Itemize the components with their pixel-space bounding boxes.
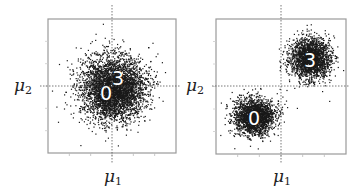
cluster-label-3: 3 bbox=[304, 49, 316, 71]
right-y-axis-label: μ2 bbox=[186, 77, 204, 96]
right-scatter-panel: 30 μ2 μ1 bbox=[0, 0, 364, 195]
right-scatter-plot: 30 bbox=[0, 0, 364, 195]
scatter-points bbox=[220, 24, 344, 149]
cluster-label-0: 0 bbox=[248, 107, 260, 129]
right-x-axis-label: μ1 bbox=[273, 168, 291, 187]
